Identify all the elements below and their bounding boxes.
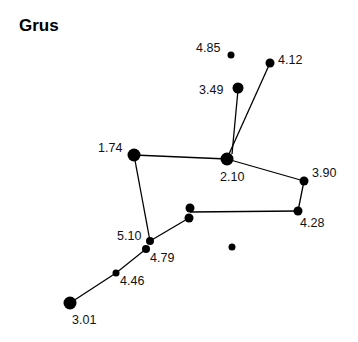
constellation-line [229, 63, 270, 154]
star-magnitude-label: 4.12 [278, 53, 302, 67]
constellation-line [70, 273, 116, 303]
star-magnitude-label: 4.28 [300, 216, 324, 230]
constellation-diagram: 4.854.123.491.742.103.904.285.104.794.46… [0, 0, 358, 342]
constellation-line [190, 211, 298, 212]
star-dot [64, 297, 77, 310]
constellation-line [134, 155, 227, 159]
constellation-line [150, 218, 189, 241]
star-dot [142, 245, 150, 253]
star-magnitude-labels: 4.854.123.491.742.103.904.285.104.794.46… [72, 41, 336, 327]
star-dot [128, 149, 141, 162]
star-magnitude-label: 3.90 [312, 166, 336, 180]
star-magnitude-label: 4.46 [120, 274, 144, 288]
star-dot [113, 270, 120, 277]
constellation-line [116, 249, 146, 273]
star-dot [294, 207, 303, 216]
star-dot [233, 83, 244, 94]
stars [64, 52, 309, 310]
star-dot [266, 59, 275, 68]
star-magnitude-label: 4.85 [196, 41, 220, 55]
star-dot [186, 204, 195, 213]
star-magnitude-label: 4.79 [150, 251, 174, 265]
constellation-line [298, 181, 304, 211]
star-dot [221, 153, 234, 166]
star-magnitude-label: 1.74 [98, 141, 122, 155]
star-dot [228, 52, 235, 59]
star-dot [229, 244, 236, 251]
constellation-lines [70, 63, 304, 303]
star-dot [185, 214, 194, 223]
star-dot [300, 177, 309, 186]
star-magnitude-label: 3.01 [72, 313, 96, 327]
star-magnitude-label: 2.10 [220, 170, 244, 184]
star-magnitude-label: 3.49 [199, 83, 223, 97]
star-dot [146, 237, 154, 245]
star-magnitude-label: 5.10 [117, 229, 141, 243]
